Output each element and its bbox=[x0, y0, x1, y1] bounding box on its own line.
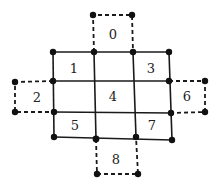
cell-label-1: 1 bbox=[70, 61, 78, 76]
vertex bbox=[51, 134, 57, 140]
vertex bbox=[93, 136, 100, 143]
cell-label-4: 4 bbox=[109, 89, 117, 104]
vertex bbox=[50, 49, 56, 55]
cell-label-5: 5 bbox=[71, 118, 79, 133]
vertex bbox=[129, 12, 135, 18]
vertex bbox=[202, 109, 208, 115]
vertex bbox=[94, 171, 100, 177]
cell-label-0: 0 bbox=[109, 27, 117, 42]
vertex bbox=[202, 78, 208, 84]
vertex bbox=[90, 12, 96, 18]
cell-labels: 0 1 2 3 4 5 6 7 8 bbox=[33, 27, 191, 167]
grid-diagram: 0 1 2 3 4 5 6 7 8 bbox=[0, 0, 222, 188]
vertex bbox=[166, 78, 172, 84]
vertex bbox=[50, 78, 56, 84]
cell-label-6: 6 bbox=[183, 89, 191, 104]
grid-line bbox=[54, 137, 172, 140]
grid-line bbox=[169, 52, 172, 140]
vertex bbox=[91, 49, 97, 55]
vertex bbox=[166, 49, 172, 55]
vertex bbox=[135, 171, 141, 177]
grid-line bbox=[133, 52, 136, 137]
vertex bbox=[12, 109, 18, 115]
grid-line bbox=[53, 52, 54, 137]
vertex bbox=[12, 79, 18, 85]
grid-line bbox=[94, 52, 96, 139]
vertex bbox=[51, 109, 57, 115]
vertex bbox=[130, 49, 136, 55]
cell-label-7: 7 bbox=[148, 118, 156, 133]
vertex bbox=[168, 110, 174, 116]
cell-label-8: 8 bbox=[112, 152, 120, 167]
vertex bbox=[133, 134, 139, 140]
cell-label-2: 2 bbox=[33, 90, 41, 105]
grid-line bbox=[54, 112, 171, 113]
cell-label-3: 3 bbox=[147, 61, 155, 76]
vertex bbox=[169, 137, 175, 143]
